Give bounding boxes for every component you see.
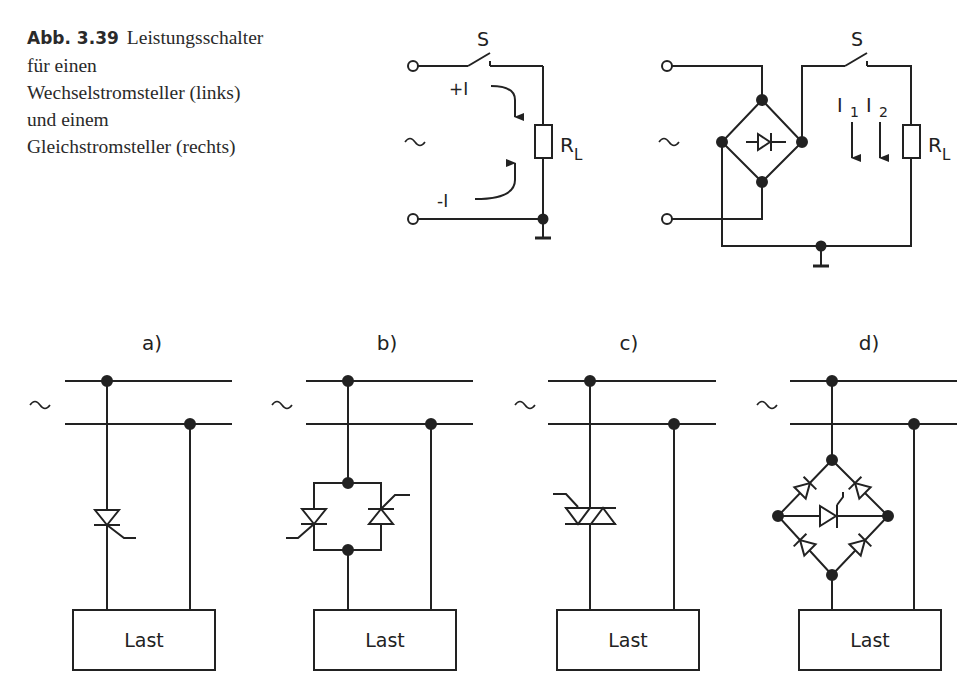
resistor-icon: [903, 125, 920, 158]
left-circuit: S +I -I R L: [405, 28, 583, 238]
load-label: Last: [124, 629, 164, 651]
thyristor-icon: [369, 509, 393, 524]
panel-d-bridge-thyristor: d) Last: [757, 331, 957, 670]
ac-source-icon: [272, 402, 292, 409]
current-2-label: I: [866, 94, 872, 116]
switch-label: S: [477, 28, 489, 50]
switch-icon: [468, 53, 490, 66]
panel-c-triac: c) Last: [515, 331, 716, 670]
panel-label: c): [620, 331, 639, 355]
current-1-sub: 1: [850, 104, 859, 120]
thyristor-icon: [820, 506, 836, 526]
load-label: Last: [608, 629, 648, 651]
load-label: Last: [365, 629, 405, 651]
resistor-label: R: [928, 133, 942, 157]
resistor-sub-label: L: [574, 146, 583, 164]
antiparallel-frame: [314, 483, 381, 550]
ac-source-icon: [659, 139, 679, 146]
switch-label: S: [851, 28, 863, 50]
current-1-label: I: [837, 94, 843, 116]
panel-label: a): [142, 331, 162, 355]
ac-source-icon: [515, 402, 535, 409]
thyristor-icon: [302, 509, 326, 524]
load-label: Last: [850, 629, 890, 651]
current-pos-label: +I: [449, 79, 468, 99]
resistor-label: R: [560, 133, 574, 157]
terminal-bottom-icon: [408, 214, 418, 224]
ac-source-icon: [30, 402, 50, 409]
switch-icon: [845, 53, 867, 66]
terminal-top-icon: [662, 61, 672, 71]
current-2-sub: 2: [879, 104, 888, 120]
ac-source-icon: [757, 402, 777, 409]
panel-label: d): [859, 331, 880, 355]
resistor-sub-label: L: [942, 146, 951, 164]
circuit-diagrams: S +I -I R L S I 1: [0, 0, 980, 700]
panel-label: b): [377, 331, 398, 355]
diode-icon: [758, 134, 770, 150]
triac-icon: [566, 508, 590, 524]
current-arrow-neg-icon: [475, 163, 515, 199]
current-arrow-pos-icon: [491, 86, 515, 117]
panel-b-antiparallel-thyristors: b) Last: [272, 331, 473, 670]
resistor-icon: [535, 125, 552, 158]
current-neg-label: -I: [437, 191, 448, 211]
ac-source-icon: [405, 139, 425, 146]
panel-a-thyristor: a) Last: [30, 331, 232, 670]
thyristor-icon: [95, 510, 119, 525]
right-circuit: S I 1 I 2 R L: [659, 28, 951, 266]
terminal-top-icon: [408, 61, 418, 71]
terminal-bottom-icon: [662, 214, 672, 224]
